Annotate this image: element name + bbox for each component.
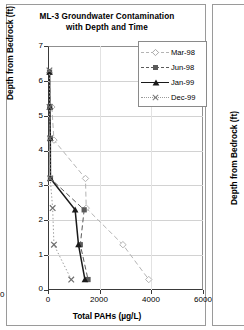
adjacent-y-tick-5: 5 — [239, 106, 244, 115]
y-tick-label-7: 7 — [25, 41, 43, 51]
x-tick-mark-2000 — [100, 290, 101, 294]
chart-title-line-1: ML-3 Groundwater Contamination — [7, 11, 207, 22]
x-tick-mark-6000 — [203, 290, 204, 294]
series-mar-98 — [49, 104, 152, 283]
y-tick-label-5: 5 — [25, 111, 43, 121]
legend-label-dec-99: Dec-99 — [169, 93, 195, 102]
chart-legend: Mar-98 Jun-98 Jan-99 — [138, 41, 207, 107]
adjacent-y-tick-6: 6 — [239, 71, 244, 80]
y-tick-label-6: 6 — [25, 76, 43, 86]
legend-key-dec-99 — [141, 91, 169, 104]
legend-item-jun-98[interactable]: Jun-98 — [141, 60, 204, 75]
series-jun-98 — [47, 70, 91, 283]
legend-key-jun-98 — [141, 61, 169, 74]
legend-label-jan-99: Jan-99 — [169, 78, 194, 87]
chart-title-line-2: with Depth and Time — [7, 22, 207, 33]
x-tick-mark-4000 — [151, 290, 152, 294]
legend-item-mar-98[interactable]: Mar-98 — [141, 45, 204, 60]
ml3-chart-panel: ML-3 Groundwater Contamination with Dept… — [6, 4, 206, 326]
y-tick-label-2: 2 — [25, 215, 43, 225]
data-point — [68, 277, 74, 283]
y-tick-label-0: 0 — [25, 284, 43, 294]
x-tick-label-2000: 2000 — [79, 295, 119, 305]
legend-item-dec-99[interactable]: Dec-99 — [141, 90, 204, 105]
legend-key-mar-98 — [141, 46, 169, 59]
adjacent-y-axis-title: Depth from Bedrock (ft) — [229, 111, 239, 205]
y-tick-label-1: 1 — [25, 250, 43, 260]
legend-label-mar-98: Mar-98 — [169, 48, 195, 57]
chart-title: ML-3 Groundwater Contamination with Dept… — [7, 11, 207, 33]
adjacent-y-tick-2: 2 — [239, 210, 244, 219]
y-axis-title: Depth from Bedrock (ft) — [5, 6, 15, 100]
adjacent-y-tick-3: 3 — [239, 175, 244, 184]
adjacent-y-tick-4: 4 — [239, 140, 244, 149]
adjacent-y-tick-7: 7 — [239, 36, 244, 45]
y-tick-label-3: 3 — [25, 180, 43, 190]
adjacent-y-tick-0: 0 — [239, 279, 244, 288]
y-tick-label-4: 4 — [25, 145, 43, 155]
adjacent-x-tick-partial: 0 — [0, 290, 4, 299]
data-point — [82, 175, 88, 181]
x-tick-mark-0 — [48, 290, 49, 294]
data-point — [82, 207, 87, 212]
figure-root: ML-3 Groundwater Contamination with Dept… — [0, 0, 244, 330]
adjacent-chart-panel: Depth from Bedrock (ft) 7 6 5 4 3 2 1 0 — [212, 4, 244, 326]
legend-key-jan-99 — [141, 76, 169, 89]
data-point — [50, 205, 56, 211]
x-axis-title: Total PAHs (µg/L) — [7, 311, 207, 321]
data-point — [51, 242, 57, 248]
adjacent-y-tick-1: 1 — [239, 245, 244, 254]
x-tick-label-4000: 4000 — [131, 295, 171, 305]
legend-label-jun-98: Jun-98 — [169, 63, 194, 72]
x-tick-label-0: 0 — [28, 295, 68, 305]
legend-item-jan-99[interactable]: Jan-99 — [141, 75, 204, 90]
